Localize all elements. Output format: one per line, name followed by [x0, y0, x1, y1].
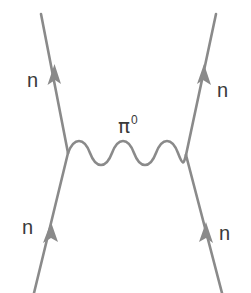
- label-pion: π0: [118, 114, 138, 136]
- label-neutron-top-left: n: [27, 70, 38, 90]
- diagram-lines: [0, 0, 251, 293]
- label-neutron-bottom-right: n: [219, 223, 230, 243]
- pion-symbol: π: [118, 114, 130, 138]
- neutron-line-top-left: [41, 14, 68, 153]
- arrow-icon-top-right: [197, 64, 211, 85]
- neutron-line-top-right: [186, 14, 216, 155]
- neutron-line-bottom-right: [186, 155, 222, 293]
- arrow-icon-bottom-right: [199, 222, 213, 243]
- label-neutron-bottom-left: n: [22, 217, 33, 237]
- pion-propagator: [68, 141, 186, 165]
- feynman-diagram: n n n n π0: [0, 0, 251, 293]
- arrow-icon-bottom-left: [43, 222, 58, 243]
- label-neutron-top-right: n: [217, 80, 228, 100]
- pion-charge: 0: [131, 113, 138, 127]
